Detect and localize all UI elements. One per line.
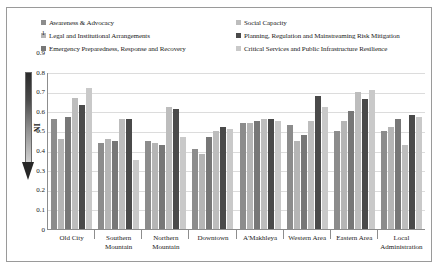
bar[interactable] [126, 119, 132, 229]
bar[interactable] [98, 143, 104, 229]
x-tick-label: Old City [48, 233, 95, 259]
y-tick-label: 0 [23, 227, 45, 234]
bar[interactable] [119, 119, 125, 229]
bar[interactable] [220, 127, 226, 229]
legend-label-3: Social Capacity [244, 19, 287, 27]
x-tick-label: Northern Mountain [142, 233, 189, 259]
bar[interactable] [341, 121, 347, 229]
legend-label-1: Legal and Institutional Arrangements [49, 32, 150, 40]
bar[interactable] [254, 121, 260, 229]
bar[interactable] [287, 125, 293, 229]
arrow-shaft [25, 72, 32, 164]
bar[interactable] [58, 139, 64, 229]
bar[interactable] [133, 160, 139, 229]
bar[interactable] [301, 135, 307, 229]
bar[interactable] [166, 107, 172, 229]
bar[interactable] [402, 145, 408, 229]
bar[interactable] [348, 111, 354, 229]
y-tick-label: 0.9 [23, 50, 45, 57]
legend-item-0[interactable]: Awareness & Advocacy [41, 16, 236, 29]
bar-group [237, 73, 284, 229]
bar[interactable] [334, 131, 340, 229]
bar[interactable] [105, 139, 111, 229]
x-tick-label: Local Administration [378, 233, 425, 259]
bar-group [378, 73, 425, 229]
bar[interactable] [261, 119, 267, 229]
bar[interactable] [369, 90, 375, 229]
legend-item-5[interactable]: Critical Services and Public Infrastruct… [236, 42, 429, 55]
bar-group [189, 73, 236, 229]
bar[interactable] [294, 141, 300, 229]
bar[interactable] [145, 141, 151, 229]
bar-group [142, 73, 189, 229]
bar[interactable] [86, 88, 92, 229]
legend-label-5: Critical Services and Public Infrastruct… [244, 45, 387, 53]
bar-group [331, 73, 378, 229]
arrow-head [22, 162, 34, 180]
legend-item-2[interactable]: Emergency Preparedness, Response and Rec… [41, 42, 236, 55]
chart-legend: Awareness & Advocacy Social Capacity Leg… [41, 16, 429, 56]
bar[interactable] [381, 131, 387, 229]
chart-figure: Awareness & Advocacy Social Capacity Leg… [6, 7, 432, 262]
y-tick-label: 0.1 [23, 207, 45, 214]
bar[interactable] [355, 92, 361, 229]
legend-item-3[interactable]: Social Capacity [236, 16, 429, 29]
legend-swatch-4 [236, 33, 241, 38]
bar[interactable] [275, 121, 281, 229]
bar[interactable] [112, 141, 118, 229]
bar[interactable] [315, 96, 321, 229]
bar[interactable] [409, 115, 415, 229]
bar[interactable] [173, 109, 179, 229]
bar[interactable] [180, 137, 186, 229]
y-axis-title: NI [33, 123, 42, 132]
legend-label-4: Planning, Regulation and Mainstreaming R… [244, 32, 400, 40]
x-tick-label: Eastern Area [331, 233, 378, 259]
x-tick-label: A'Makhleya [237, 233, 284, 259]
legend-label-0: Awareness & Advocacy [49, 19, 114, 27]
legend-swatch-5 [236, 46, 241, 51]
bar[interactable] [72, 98, 78, 229]
y-tick-label: 0.2 [23, 187, 45, 194]
bar[interactable] [159, 145, 165, 229]
bar[interactable] [152, 143, 158, 229]
bar[interactable] [395, 119, 401, 229]
bar[interactable] [51, 119, 57, 229]
legend-item-4[interactable]: Planning, Regulation and Mainstreaming R… [236, 29, 429, 42]
bar[interactable] [206, 137, 212, 229]
bar[interactable] [240, 123, 246, 229]
x-axis-labels: Old CitySouthern MountainNorthern Mounta… [48, 233, 425, 259]
plot-area [47, 73, 425, 230]
bar[interactable] [362, 99, 368, 229]
bar[interactable] [416, 117, 422, 229]
legend-label-2: Emergency Preparedness, Response and Rec… [49, 45, 186, 53]
bar[interactable] [388, 127, 394, 229]
legend-item-1[interactable]: Legal and Institutional Arrangements [41, 29, 236, 42]
bar[interactable] [79, 105, 85, 229]
bar-group [284, 73, 331, 229]
bar[interactable] [308, 121, 314, 229]
x-tick-label: Southern Mountain [95, 233, 142, 259]
bar-group [48, 73, 95, 229]
bar[interactable] [268, 119, 274, 229]
bar[interactable] [322, 107, 328, 229]
legend-swatch-3 [236, 20, 241, 25]
bar-group [95, 73, 142, 229]
bar[interactable] [192, 149, 198, 229]
bar[interactable] [247, 123, 253, 229]
y-tick-label: 1 [23, 30, 45, 37]
bar[interactable] [213, 131, 219, 229]
bar-groups [48, 73, 425, 229]
bar[interactable] [199, 154, 205, 229]
x-tick-label: Downtown [189, 233, 236, 259]
x-tick-label: Western Area [284, 233, 331, 259]
bar[interactable] [227, 129, 233, 229]
bar[interactable] [65, 117, 71, 229]
